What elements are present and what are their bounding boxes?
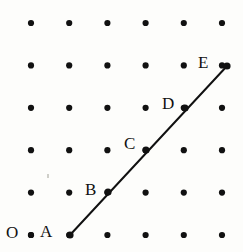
grid-dot: [219, 147, 225, 153]
grid-dots-group: [28, 20, 225, 238]
grid-dot: [181, 147, 187, 153]
grid-dot: [28, 20, 34, 26]
point-label-b: B: [85, 181, 96, 198]
grid-dot: [143, 105, 149, 111]
dot-grid-figure: OABCDE: [0, 0, 243, 252]
paper-speck: [47, 174, 49, 178]
point-label-o: O: [6, 224, 18, 241]
grid-dot: [66, 20, 72, 26]
grid-dot: [219, 20, 225, 26]
grid-dot: [143, 232, 149, 238]
grid-dot: [66, 105, 72, 111]
grid-dot: [143, 62, 149, 68]
grid-dot: [181, 232, 187, 238]
grid-dot: [104, 232, 110, 238]
grid-dot: [28, 62, 34, 68]
grid-dot: [66, 62, 72, 68]
point-marker-c: [142, 146, 149, 153]
grid-dot: [104, 147, 110, 153]
grid-dot: [181, 62, 187, 68]
grid-dot: [104, 20, 110, 26]
grid-dot: [28, 105, 34, 111]
grid-dot: [104, 105, 110, 111]
grid-dot: [219, 190, 225, 196]
diagram-canvas: [0, 0, 243, 252]
point-marker-a: [66, 231, 73, 238]
point-label-a: A: [40, 223, 52, 240]
point-label-c: C: [124, 135, 135, 152]
grid-dot: [66, 190, 72, 196]
grid-dot: [28, 147, 34, 153]
point-label-e: E: [198, 54, 208, 71]
grid-dot: [219, 232, 225, 238]
point-label-d: D: [162, 95, 174, 112]
point-marker-o: [28, 232, 34, 238]
grid-dot: [219, 105, 225, 111]
grid-dot: [181, 190, 187, 196]
grid-dot: [28, 190, 34, 196]
grid-dot: [104, 62, 110, 68]
point-marker-b: [104, 188, 111, 195]
grid-dot: [66, 147, 72, 153]
point-marker-e: [223, 62, 230, 69]
grid-dot: [143, 20, 149, 26]
point-marker-d: [181, 104, 188, 111]
grid-dot: [181, 20, 187, 26]
grid-dot: [143, 190, 149, 196]
